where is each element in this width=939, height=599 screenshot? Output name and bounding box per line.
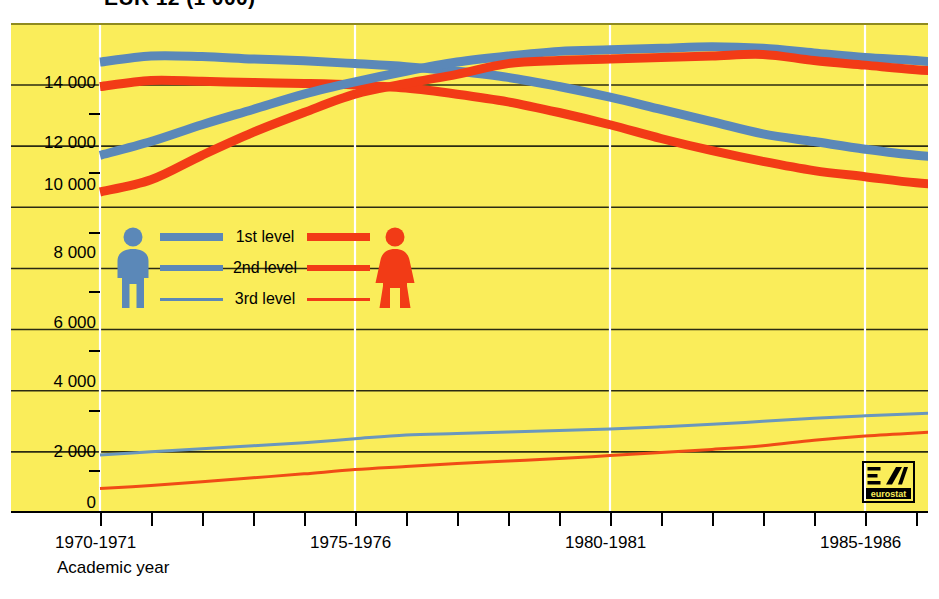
y-axis-label: 0: [87, 493, 96, 513]
legend-label: 2nd level: [223, 259, 307, 277]
y-axis-minor-tick: [89, 470, 100, 472]
chart-root: EUR 12 (1 000) 14 000 12 000 10 000 8 00…: [0, 0, 939, 599]
legend-swatch-female-3rd: [307, 298, 370, 301]
male-pictogram: [112, 226, 154, 310]
y-axis-minor-tick: [89, 291, 100, 293]
legend-swatch-female-2nd: [307, 265, 370, 271]
x-axis-tick: [508, 513, 510, 526]
x-axis-tick: [559, 513, 561, 526]
x-axis-tick: [202, 513, 204, 526]
x-axis-tick: [865, 513, 867, 526]
y-axis-label: 6 000: [53, 313, 96, 333]
x-axis-tick: [253, 513, 255, 526]
legend-swatch-male-1st: [160, 233, 223, 241]
x-axis-label: 1970-1971: [55, 533, 136, 553]
y-axis-minor-tick: [89, 232, 100, 234]
x-axis-tick: [610, 513, 612, 526]
legend-label: 3rd level: [223, 290, 307, 308]
y-axis-label: 2 000: [53, 442, 96, 462]
x-axis-tick: [406, 513, 408, 526]
y-axis-minor-tick: [89, 113, 100, 115]
legend-item-1st-level[interactable]: 1st level: [160, 222, 410, 252]
x-axis-label: 1980-1981: [565, 533, 646, 553]
legend-item-3rd-level[interactable]: 3rd level: [160, 284, 410, 314]
x-axis-tick: [100, 513, 102, 526]
eurostat-wordmark: eurostat: [871, 489, 907, 499]
x-axis-tick: [355, 513, 357, 526]
legend-swatch-male-2nd: [160, 265, 223, 271]
x-axis-line: [11, 511, 928, 513]
y-axis-label: 8 000: [53, 243, 96, 263]
eurostat-logo: eurostat: [862, 461, 915, 503]
x-axis-label: 1975-1976: [310, 533, 391, 553]
x-axis-tick: [661, 513, 663, 526]
x-axis-label: 1985-1986: [820, 533, 901, 553]
x-axis-caption: Academic year: [57, 558, 169, 578]
x-axis-tick: [151, 513, 153, 526]
y-axis-minor-tick: [89, 172, 100, 174]
x-axis-tick: [916, 513, 918, 526]
legend-item-2nd-level[interactable]: 2nd level: [160, 253, 410, 283]
legend-rows: 1st level 2nd level 3rd level: [160, 222, 410, 314]
y-axis-label: 10 000: [44, 175, 96, 195]
x-axis-tick: [457, 513, 459, 526]
y-axis-label: 4 000: [53, 372, 96, 392]
y-axis-minor-tick: [89, 350, 100, 352]
x-axis-tick: [814, 513, 816, 526]
legend-swatch-male-3rd: [160, 298, 223, 301]
y-axis-label: 14 000: [44, 73, 96, 93]
x-axis-tick: [763, 513, 765, 526]
legend: 1st level 2nd level 3rd level: [112, 222, 412, 314]
legend-swatch-female-1st: [307, 233, 370, 241]
female-pictogram: [374, 226, 416, 310]
x-axis-tick: [304, 513, 306, 526]
y-axis-minor-tick: [89, 410, 100, 412]
x-axis-tick: [712, 513, 714, 526]
legend-label: 1st level: [223, 228, 307, 246]
y-axis-label: 12 000: [44, 133, 96, 153]
